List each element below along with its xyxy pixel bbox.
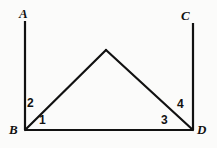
- angle-label-1: 1: [39, 114, 46, 126]
- angle-label-4: 4: [177, 98, 184, 110]
- segment-B-apex: [25, 50, 106, 130]
- vertex-label-c: C: [181, 9, 190, 22]
- angle-label-2: 2: [27, 97, 34, 109]
- angle-label-3: 3: [161, 114, 168, 126]
- geometry-figure: A C B D 1 2 3 4: [0, 0, 217, 148]
- vertex-label-d: D: [197, 123, 206, 136]
- vertex-label-a: A: [19, 7, 28, 20]
- vertex-label-b: B: [9, 123, 18, 136]
- segment-apex-D: [106, 50, 193, 130]
